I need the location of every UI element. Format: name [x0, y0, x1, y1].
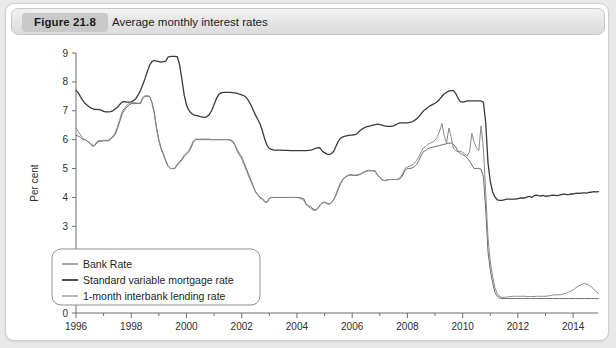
x-axis: 1996199820002002200420062008201020122014 [65, 313, 598, 332]
interest-rates-line-chart: 0123456789 19961998200020022004200620082… [6, 35, 610, 341]
x-tick-label: 1996 [65, 321, 88, 332]
x-tick-label: 2012 [507, 321, 530, 332]
legend-label-0: Bank Rate [83, 258, 132, 270]
legend-label-2: 1-month interbank lending rate [83, 290, 226, 302]
chart-legend: Bank RateStandard variable mortgage rate… [52, 249, 260, 305]
x-tick-label: 2004 [286, 321, 309, 332]
figure-title: Average monthly interest rates [112, 13, 268, 32]
x-tick-label: 2006 [341, 321, 364, 332]
y-tick-label: 6 [62, 134, 68, 145]
figure-card: Figure 21.8 Average monthly interest rat… [5, 3, 609, 341]
figure-number-badge: Figure 21.8 [22, 13, 108, 32]
x-tick-label: 2014 [562, 321, 585, 332]
x-tick-label: 2010 [452, 321, 475, 332]
chart-plot-area: 0123456789 19961998200020022004200620082… [6, 35, 610, 341]
y-axis-title: Per cent [29, 164, 40, 201]
y-tick-label: 3 [62, 221, 68, 232]
figure-header-bar: Figure 21.8 Average monthly interest rat… [11, 8, 605, 35]
x-tick-label: 2002 [231, 321, 254, 332]
y-tick-label: 0 [62, 308, 68, 319]
series-line-standard-variable-mortgage-rate [76, 56, 598, 200]
x-tick-label: 2000 [175, 321, 198, 332]
y-tick-label: 5 [62, 163, 68, 174]
y-tick-label: 4 [62, 192, 68, 203]
x-tick-label: 2008 [396, 321, 419, 332]
x-tick-label: 1998 [120, 321, 143, 332]
y-tick-label: 8 [62, 76, 68, 87]
legend-label-1: Standard variable mortgage rate [83, 274, 234, 286]
y-tick-label: 7 [62, 105, 68, 116]
y-tick-label: 9 [62, 48, 68, 59]
